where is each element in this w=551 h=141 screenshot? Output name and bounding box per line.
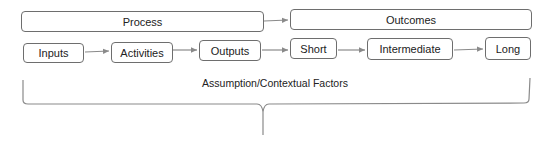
step-box-long: Long bbox=[485, 37, 531, 60]
step-box-intermediate: Intermediate bbox=[367, 38, 453, 60]
step-box-outputs: Outputs bbox=[199, 40, 261, 61]
group-label-process: Process bbox=[123, 16, 163, 28]
step-box-inputs: Inputs bbox=[23, 43, 84, 63]
step-box-activities: Activities bbox=[111, 42, 173, 63]
arrow-inputs-to-activities bbox=[85, 51, 109, 52]
arrow-process-to-outcomes bbox=[264, 20, 288, 21]
brace-label: Assumption/Contextual Factors bbox=[150, 77, 400, 89]
group-box-outcomes: Outcomes bbox=[290, 9, 532, 30]
group-label-outcomes: Outcomes bbox=[386, 14, 436, 26]
step-label-inputs: Inputs bbox=[39, 47, 69, 59]
step-box-short: Short bbox=[290, 38, 337, 59]
step-label-activities: Activities bbox=[120, 47, 163, 59]
step-label-intermediate: Intermediate bbox=[379, 43, 440, 55]
step-label-long: Long bbox=[496, 43, 520, 55]
step-label-outputs: Outputs bbox=[211, 45, 250, 57]
arrow-intermediate-to-long bbox=[454, 49, 483, 50]
step-label-short: Short bbox=[300, 43, 326, 55]
group-box-process: Process bbox=[21, 11, 264, 32]
